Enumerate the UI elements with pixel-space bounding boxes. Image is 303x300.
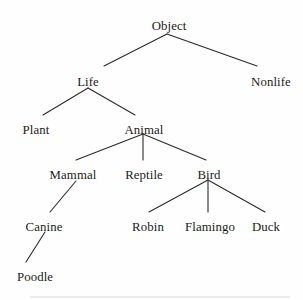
edge-mammal-to-canine (50, 181, 76, 212)
edge-object-to-nonlife (167, 34, 257, 66)
tree-node-bird: Bird (197, 169, 220, 182)
edge-life-to-plant (43, 88, 88, 115)
tree-node-duck: Duck (252, 221, 280, 234)
edge-canine-to-poodle (26, 232, 45, 262)
tree-node-life: Life (77, 76, 99, 89)
tree-node-animal: Animal (125, 124, 164, 137)
edge-animal-to-bird (143, 134, 206, 160)
edge-object-to-life (104, 34, 167, 66)
tree-node-plant: Plant (23, 124, 50, 137)
tree-edges-layer (0, 0, 303, 300)
tree-node-nonlife: Nonlife (251, 76, 291, 89)
tree-node-robin: Robin (132, 221, 164, 234)
tree-node-flamingo: Flamingo (185, 221, 235, 234)
taxonomy-tree-figure: ObjectLifeNonlifePlantAnimalMammalReptil… (0, 0, 303, 300)
tree-node-poodle: Poodle (17, 271, 53, 284)
edge-life-to-animal (88, 88, 135, 115)
tree-node-mammal: Mammal (50, 169, 97, 182)
edge-bird-to-robin (149, 180, 208, 212)
edge-bird-to-duck (208, 180, 265, 212)
edge-animal-to-mammal (76, 134, 143, 160)
tree-node-object: Object (152, 20, 187, 33)
tree-node-canine: Canine (26, 221, 63, 234)
tree-node-reptile: Reptile (125, 169, 163, 182)
